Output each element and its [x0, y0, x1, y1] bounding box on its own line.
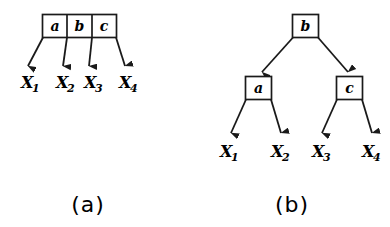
figure-container: a b c X 1 X 2 X 3 X 4 (a)	[0, 0, 390, 227]
leaf-label-sub: 3	[95, 82, 103, 95]
pointer-arrow-3	[89, 38, 92, 67]
panel-b-leaf-4: X 4	[361, 142, 381, 164]
panel-b-leaf-2: X 2	[270, 142, 290, 164]
leaf-label-sub: 3	[323, 151, 331, 164]
panel-a-group: a b c X 1 X 2 X 3 X 4 (a)	[20, 15, 138, 218]
tree-edge-root-to-c	[318, 38, 348, 73]
leaf-label-sub: 4	[373, 151, 381, 164]
pointer-arrow-4	[116, 38, 125, 67]
record-cell-label-a: a	[50, 18, 59, 34]
panel-b-leaf-3: X 3	[311, 142, 331, 164]
panel-a-leaf-3: X 3	[83, 73, 103, 95]
panel-b-leaf-1: X 1	[219, 142, 239, 164]
record-cell-label-b: b	[75, 18, 85, 34]
panel-b-caption: (b)	[275, 192, 309, 217]
tree-node-label-a: a	[254, 80, 263, 96]
panel-a-leaf-2: X 2	[55, 73, 75, 95]
panel-b-group: b a c X 1 X 2	[219, 15, 381, 218]
panel-a-leaf-1: X 1	[20, 73, 40, 95]
leaf-label-sub: 2	[281, 151, 290, 164]
leaf-label-sub: 1	[32, 82, 40, 95]
record-cell-label-c: c	[100, 18, 109, 34]
pointer-arrow-1	[28, 38, 43, 67]
leaf-label-sub: 4	[130, 82, 138, 95]
tree-edge-c-to-x4	[362, 100, 372, 134]
panel-a-leaf-4: X 4	[118, 73, 138, 95]
leaf-label-sub: 2	[66, 82, 75, 95]
tree-node-label-c: c	[345, 80, 354, 96]
tree-edge-a-to-x1	[231, 100, 246, 134]
leaf-label-sub: 1	[231, 151, 239, 164]
figure-svg: a b c X 1 X 2 X 3 X 4 (a)	[0, 0, 390, 227]
tree-root-label: b	[301, 18, 311, 34]
tree-edge-c-to-x3	[322, 100, 337, 134]
pointer-arrow-2	[63, 38, 67, 67]
panel-a-caption: (a)	[71, 192, 105, 217]
tree-edge-a-to-x2	[271, 100, 281, 134]
tree-edge-root-to-a	[262, 38, 293, 73]
